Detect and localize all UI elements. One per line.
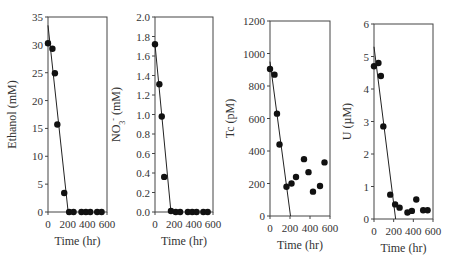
x-tick-label: 0	[267, 222, 273, 234]
y-ticks: 020040060080010001200	[243, 15, 270, 222]
x-tick-label: 600	[322, 222, 339, 234]
y-tick-label: 25	[32, 67, 44, 79]
data-point	[378, 73, 384, 79]
y-tick-label: 1.2	[136, 89, 150, 101]
data-point	[156, 81, 162, 87]
data-point	[276, 141, 282, 147]
data-point	[321, 159, 327, 165]
x-ticks: 0200400600	[267, 216, 339, 234]
y-tick-label: 1.4	[136, 70, 150, 82]
x-tick-label: 200	[59, 218, 76, 230]
x-tick-label: 600	[205, 218, 222, 230]
fit-line	[270, 62, 291, 216]
data-point	[413, 196, 419, 202]
data-point	[375, 60, 381, 66]
y-tick-label: 1200	[243, 15, 266, 27]
data-points	[371, 60, 431, 216]
data-point	[193, 209, 199, 215]
data-point	[159, 113, 165, 119]
data-point	[409, 208, 415, 214]
data-point	[98, 209, 104, 215]
y-tick-label: 1.0	[136, 109, 150, 121]
y-axis-label: Ethanol (mM)	[5, 80, 19, 148]
panel-ethanol: 05101520253035 0200400600 Time (hr) Etha…	[5, 11, 116, 248]
data-point	[177, 209, 183, 215]
y-tick-label: 1000	[243, 48, 266, 60]
y-axis-label-unit: (mM)	[109, 87, 123, 115]
x-tick-label: 200	[282, 222, 299, 234]
data-point	[52, 70, 58, 76]
y-axis-label: Tc (pM)	[223, 99, 237, 138]
x-tick-label: 0	[371, 225, 377, 237]
y-tick-label: 0	[364, 213, 370, 225]
data-point	[61, 190, 67, 196]
y-tick-label: 3	[364, 116, 370, 128]
x-tick-label: 400	[79, 218, 96, 230]
panel-uranium: 0123456 0200400600 Time (hr) U (µM)	[340, 18, 442, 255]
y-ticks: 0.00.20.40.60.81.01.21.41.61.82.0	[136, 11, 155, 218]
data-point	[301, 156, 307, 162]
y-tick-label: 0	[260, 210, 266, 222]
x-tick-label: 400	[405, 225, 422, 237]
figure: 05101520253035 0200400600 Time (hr) Etha…	[0, 0, 455, 261]
fit-line	[155, 44, 171, 212]
y-tick-label: 2	[364, 148, 370, 160]
data-points	[267, 66, 328, 195]
y-tick-label: 1.8	[136, 31, 150, 43]
y-axis-label-superscript: -	[109, 118, 118, 121]
x-tick-label: 600	[99, 218, 116, 230]
data-point	[70, 209, 76, 215]
data-point	[54, 121, 60, 127]
data-point	[380, 123, 386, 129]
y-tick-label: 1.6	[136, 50, 150, 62]
y-tick-label: 0.6	[136, 148, 150, 160]
data-point	[87, 209, 93, 215]
data-point	[49, 46, 55, 52]
data-point	[396, 204, 402, 210]
y-tick-label: 20	[32, 95, 44, 107]
x-tick-label: 600	[425, 225, 442, 237]
y-ticks: 0123456	[364, 18, 375, 225]
y-tick-label: 0.2	[136, 187, 150, 199]
x-tick-label: 200	[385, 225, 402, 237]
x-ticks: 0200400600	[371, 219, 442, 237]
data-point	[45, 40, 51, 46]
x-axis-label: Time (hr)	[55, 234, 101, 248]
y-tick-label: 0.4	[136, 167, 150, 179]
y-tick-label: 15	[32, 122, 44, 134]
panel-nitrate: 0.00.20.40.60.81.01.21.41.61.82.0 020040…	[109, 11, 222, 248]
y-tick-label: 0.0	[136, 206, 150, 218]
data-point	[305, 169, 311, 175]
y-tick-label: 5	[364, 51, 370, 63]
data-point	[424, 207, 430, 213]
plot-frame	[374, 24, 433, 219]
y-tick-label: 800	[249, 80, 266, 92]
y-axis-label: U (µM)	[340, 103, 354, 140]
y-tick-label: 4	[364, 83, 370, 95]
data-point	[274, 110, 280, 116]
y-axis-label: NO3-(mM)	[109, 87, 127, 142]
plot-frame	[48, 17, 107, 212]
y-tick-label: 5	[38, 178, 44, 190]
y-tick-label: 30	[32, 39, 44, 51]
data-point	[387, 191, 393, 197]
x-tick-label: 0	[45, 218, 51, 230]
y-tick-label: 600	[249, 113, 266, 125]
x-tick-label: 200	[166, 218, 183, 230]
data-point	[271, 71, 277, 77]
y-tick-label: 1	[364, 181, 370, 193]
y-tick-label: 0.8	[136, 128, 150, 140]
y-tick-label: 10	[32, 150, 44, 162]
data-point	[161, 174, 167, 180]
x-axis-label: Time (hr)	[161, 234, 207, 248]
data-point	[288, 180, 294, 186]
data-point	[317, 183, 323, 189]
data-point	[310, 188, 316, 194]
data-point	[267, 66, 273, 72]
data-points	[45, 40, 105, 215]
y-tick-label: 2.0	[136, 11, 150, 23]
x-tick-label: 400	[185, 218, 202, 230]
y-axis-label-subscript: 3	[118, 121, 127, 125]
y-tick-label: 0	[38, 206, 44, 218]
data-point	[204, 209, 210, 215]
